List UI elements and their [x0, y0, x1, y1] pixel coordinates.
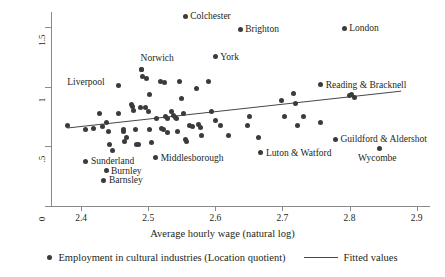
data-point [124, 135, 129, 140]
data-point [301, 114, 306, 119]
data-point-labeled [101, 178, 106, 183]
x-tick [417, 206, 418, 211]
point-label: Middlesborough [161, 154, 224, 164]
data-point-labeled [377, 146, 382, 151]
legend-label-scatter: Employment in cultural industries (Locat… [58, 252, 285, 263]
x-tick-label: 2.9 [397, 213, 437, 223]
x-tick-label: 2.4 [61, 213, 101, 223]
data-point [136, 142, 141, 147]
data-point [218, 123, 223, 128]
data-point [181, 111, 186, 116]
data-point [318, 120, 323, 125]
data-point [226, 133, 231, 138]
data-point [149, 140, 154, 145]
y-axis-line [51, 12, 52, 206]
point-label: Luton & Watford [266, 149, 332, 159]
y-tick-label: 1.5 [37, 27, 47, 53]
data-point [138, 105, 143, 110]
y-tick-label: .5 [37, 146, 47, 172]
x-tick [282, 206, 283, 211]
x-tick [215, 206, 216, 211]
data-point [256, 135, 261, 140]
data-point [106, 129, 111, 134]
data-point-labeled [333, 137, 338, 142]
legend-item-scatter: Employment in cultural industries (Locat… [47, 252, 285, 263]
data-point [291, 91, 296, 96]
data-point [147, 127, 152, 132]
data-point [104, 120, 109, 125]
point-label: Brighton [245, 25, 279, 35]
y-tick-label: 1 [37, 87, 47, 113]
data-point [279, 98, 284, 103]
x-tick [148, 206, 149, 211]
data-point [165, 130, 170, 135]
data-point-labeled [342, 26, 347, 31]
point-label: Liverpool [67, 78, 104, 88]
scatter-plot-figure: 0.511.5 2.42.52.62.72.82.9 ColchesterBri… [0, 0, 445, 277]
point-label: York [220, 53, 239, 63]
data-point [107, 142, 112, 147]
data-point [293, 101, 298, 106]
line-marker-icon [304, 257, 338, 258]
data-point [194, 86, 199, 91]
data-point [174, 116, 179, 121]
legend-label-fitted: Fitted values [344, 252, 398, 263]
data-point [247, 114, 252, 119]
x-tick [81, 206, 82, 211]
data-point [245, 123, 250, 128]
x-tick-label: 2.5 [128, 213, 168, 223]
point-label: London [349, 24, 379, 34]
legend-item-fitted: Fitted values [304, 252, 398, 263]
data-point [213, 118, 218, 123]
data-point [121, 127, 126, 132]
point-label: Colchester [190, 12, 231, 22]
data-point [100, 124, 105, 129]
scatter-marker-icon [47, 255, 52, 260]
data-point-labeled [258, 150, 263, 155]
data-point [144, 76, 149, 81]
data-point-labeled [213, 54, 218, 59]
data-point [209, 109, 214, 114]
data-point-labeled [318, 82, 323, 87]
data-point [179, 96, 184, 101]
point-label: Reading & Bracknell [326, 81, 407, 91]
point-label: Guildford & Aldershot [340, 135, 427, 145]
x-tick-label: 2.8 [330, 213, 370, 223]
data-point [206, 79, 211, 84]
data-point-labeled [153, 155, 158, 160]
data-point [97, 111, 102, 116]
data-point [295, 123, 300, 128]
point-label: Wycombe [358, 154, 396, 164]
data-point [110, 148, 115, 153]
data-point-labeled [183, 14, 188, 19]
data-point-labeled [139, 67, 144, 72]
data-point [91, 126, 96, 131]
data-point [65, 123, 70, 128]
x-tick-label: 2.7 [262, 213, 302, 223]
data-point [184, 139, 189, 144]
x-tick [350, 206, 351, 211]
data-point [146, 109, 151, 114]
data-point [154, 116, 159, 121]
point-label: Barnsley [109, 176, 143, 186]
data-point-labeled [104, 168, 109, 173]
data-point [116, 111, 121, 116]
data-point [83, 127, 88, 132]
data-point-labeled [238, 27, 243, 32]
chart-legend: Employment in cultural industries (Locat… [0, 252, 445, 263]
data-point [131, 108, 136, 113]
x-axis-title: Average hourly wage (natural log) [0, 228, 445, 239]
data-point [199, 133, 204, 138]
x-axis-line [51, 206, 430, 207]
x-tick-label: 2.6 [195, 213, 235, 223]
data-point-labeled [83, 159, 88, 164]
data-point [282, 114, 287, 119]
data-point [133, 127, 138, 132]
data-point [352, 95, 357, 100]
data-point [198, 125, 203, 130]
data-point [165, 116, 170, 121]
data-point [162, 80, 167, 85]
data-point [175, 129, 180, 134]
data-point [190, 124, 195, 129]
data-point [177, 79, 182, 84]
